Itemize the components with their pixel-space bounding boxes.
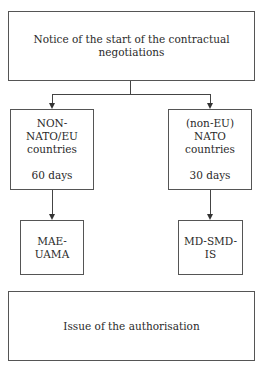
- connector-right-authority: [210, 190, 211, 215]
- right-authority-label: MD-SMD-IS: [179, 235, 242, 261]
- nato-countries-box: (non-EU) NATO countries 30 days: [168, 109, 252, 190]
- notice-start-negotiations-box: Notice of the start of the contractual n…: [8, 11, 255, 81]
- left-branch-line1: NON-NATO/EU: [11, 117, 93, 143]
- connector-horizontal: [52, 94, 211, 95]
- right-branch-duration: 30 days: [189, 169, 230, 182]
- connector-left-authority: [52, 190, 53, 215]
- left-branch-duration: 60 days: [31, 169, 72, 182]
- right-branch-line1: (non-EU) NATO: [169, 117, 251, 143]
- issue-label: Issue of the authorisation: [63, 320, 199, 333]
- mae-uama-box: MAE-UAMA: [20, 220, 84, 275]
- connector-vertical: [130, 81, 131, 95]
- md-smd-is-box: MD-SMD-IS: [178, 220, 243, 275]
- right-branch-line2: countries: [185, 143, 235, 156]
- left-authority-label: MAE-UAMA: [21, 235, 83, 261]
- issue-authorisation-box: Issue of the authorisation: [8, 291, 255, 361]
- non-nato-eu-countries-box: NON-NATO/EU countries 60 days: [10, 109, 94, 190]
- notice-label: Notice of the start of the contractual n…: [9, 33, 254, 59]
- left-branch-line2: countries: [27, 143, 77, 156]
